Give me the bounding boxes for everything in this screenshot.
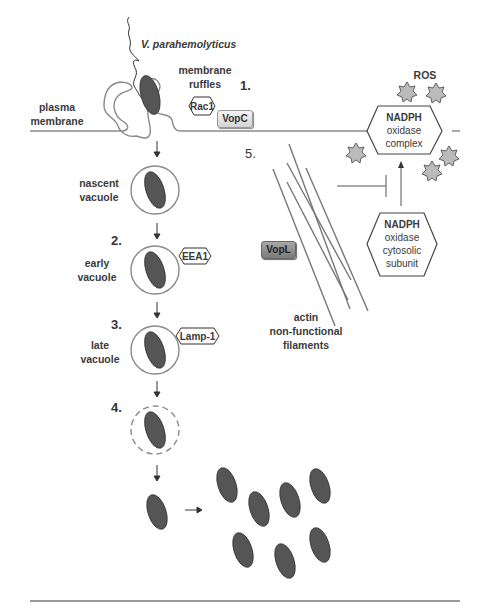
nadph-complex-label-3: complex [378, 137, 430, 150]
nascent-vacuole-label-2: vacuole [76, 191, 122, 204]
late-vacuole-label-2: vacuole [77, 353, 123, 366]
ros-label: ROS [410, 69, 440, 82]
vopc-effector: VopC [217, 110, 253, 128]
nadph-complex-label-1: NADPH [378, 111, 430, 124]
step-5-label: 5. [245, 146, 256, 161]
early-vacuole-label-2: vacuole [74, 271, 120, 284]
eea1-label: EEA1 [179, 250, 211, 263]
vopl-effector: VopL [261, 241, 296, 259]
plasma-membrane-label-2: membrane [30, 115, 84, 128]
actin-filaments [273, 144, 368, 326]
actin-label-1: actin [266, 311, 346, 324]
step-4-label: 4. [111, 400, 122, 415]
bacterium-entering [136, 73, 164, 116]
replicating-bacteria [213, 465, 334, 581]
actin-label-3: filaments [266, 339, 346, 352]
nascent-vacuole-label-1: nascent [76, 177, 122, 190]
lamp1-label: Lamp-1 [176, 330, 219, 343]
nadph-subunit-label-1: NADPH [376, 218, 428, 231]
step-1-label: 1. [240, 78, 251, 93]
step-2-label: 2. [111, 233, 122, 248]
step-3-label: 3. [111, 317, 122, 332]
early-vacuole-label-1: early [74, 257, 120, 270]
membrane-ruffles-label-1: membrane [178, 64, 232, 77]
rac1-label: Rac1 [189, 100, 215, 113]
nadph-subunit-label-4: subunit [376, 257, 428, 270]
nadph-subunit-label-2: oxidase [376, 231, 428, 244]
membrane-ruffles-label-2: ruffles [178, 78, 232, 91]
free-bacterium [143, 492, 171, 532]
nadph-complex-label-2: oxidase [378, 124, 430, 137]
actin-label-2: non-functional [266, 325, 346, 338]
plasma-membrane-label-1: plasma [30, 101, 84, 114]
bacterium-label: V. parahemolyticus [141, 38, 236, 51]
nadph-subunit-label-3: cytosolic [376, 244, 428, 257]
late-vacuole-label-1: late [77, 339, 123, 352]
